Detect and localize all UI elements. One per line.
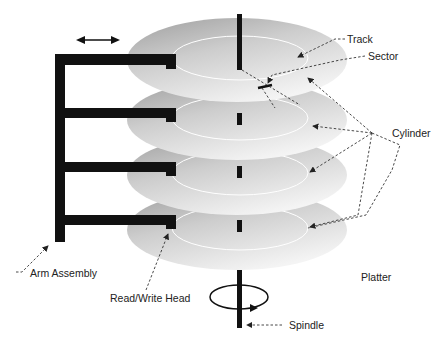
platter-label: Platter [361, 272, 391, 283]
read-write-head-label: Read/Write Head [110, 293, 190, 304]
spindle-segment [237, 220, 242, 232]
arm-motion-double-arrow-icon [76, 36, 120, 44]
track-label: Track [347, 34, 373, 45]
spindle-bottom [237, 270, 242, 328]
spindle-segment [237, 166, 242, 178]
spindle-segment [237, 113, 242, 125]
spindle-label: Spindle [289, 320, 324, 331]
disk-drive-diagram: Track Sector Cylinder Arm Assembly Read/… [0, 0, 448, 344]
spindle-top [237, 14, 242, 70]
cylinder-label: Cylinder [392, 128, 431, 139]
arm-assembly-label: Arm Assembly [30, 268, 97, 279]
sector-label: Sector [368, 51, 398, 62]
